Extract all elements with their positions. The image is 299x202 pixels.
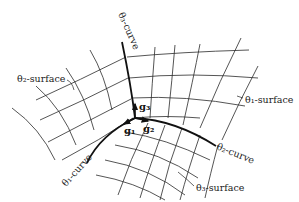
theta3-curve-label: θ₃-curve <box>116 10 142 51</box>
g1-vector <box>124 118 135 124</box>
coordinate-diagram: g₃ g₁ g₂ θ₃-curve θ₂-surface θ₁-surface … <box>0 0 299 202</box>
theta2-surface-grid <box>12 50 133 160</box>
theta2-surface-label: θ₂-surface <box>17 73 66 84</box>
theta3-surface-label: θ₃-surface <box>196 182 245 193</box>
theta1-curve-label: θ₁-curve <box>59 151 94 188</box>
theta1-surface-label: θ₁-surface <box>245 94 294 105</box>
g3-label: g₃ <box>139 101 150 112</box>
g1-label: g₁ <box>124 125 135 136</box>
g2-label: g₂ <box>143 123 154 134</box>
theta2-curve-label: θ₂-curve <box>215 141 256 166</box>
